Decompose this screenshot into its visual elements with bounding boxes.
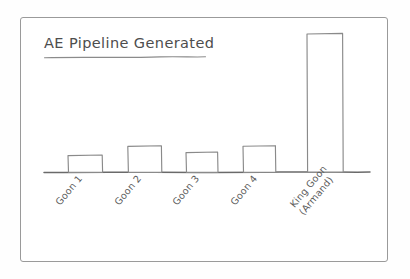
bar-goon-1[interactable]	[68, 155, 103, 172]
tick-label-goon-4: Goon 4	[228, 173, 259, 207]
bar-goon-3[interactable]	[186, 152, 218, 172]
title-underline	[45, 57, 206, 58]
bar-goon-2[interactable]	[128, 146, 162, 173]
bar-king-goon-armand[interactable]	[307, 33, 343, 172]
screenshot-root: AE Pipeline Generated Goon 1 Goon 2 Goon…	[0, 0, 410, 279]
bar-goon-4[interactable]	[243, 146, 276, 173]
bar-chart: AE Pipeline Generated Goon 1 Goon 2 Goon…	[0, 0, 410, 279]
tick-label-goon-3: Goon 3	[170, 173, 201, 207]
tick-label-goon-1: Goon 1	[53, 173, 84, 207]
chart-title: AE Pipeline Generated	[44, 35, 214, 51]
tick-label-goon-2: Goon 2	[112, 173, 143, 207]
